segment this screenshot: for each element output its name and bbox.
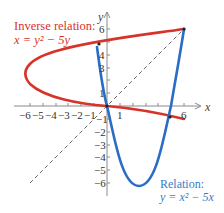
relation-title: Relation: [160,178,204,190]
x-tick-label: 6 [181,110,187,121]
y-tick-label: −2 [94,127,106,138]
y-axis-label: y [98,11,103,23]
inverse-relation-title: Inverse relation: [14,20,96,33]
x-tick-label: −3 [58,110,70,121]
graph-figure: −6 −5 −4 −3 −2 −1 1 6 6 4 3 1 −1 −2 −3 −… [0,0,224,213]
x-tick-label: −5 [32,110,44,121]
x-tick-label: −2 [71,110,83,121]
relation-equation: y = x² − 5x [160,191,214,203]
y-tick-label: −1 [96,114,108,125]
x-axis-label: x [205,101,210,113]
y-tick-label: 6 [99,24,105,35]
y-tick-label: −6 [94,178,106,189]
y-tick-label: 3 [99,63,105,74]
x-tick-label: −1 [84,110,96,121]
intersection-point-a [97,42,100,45]
x-tick-label: −4 [45,110,57,121]
y-tick-label: −5 [94,165,106,176]
y-tick-label: −3 [94,140,106,151]
intersection-point-origin [105,104,108,107]
x-tick-label: 1 [117,110,123,121]
intersection-point-b [168,115,171,118]
x-tick-label: −6 [19,110,31,121]
y-tick-label: 4 [99,50,105,61]
intersection-point-6-6 [182,27,185,30]
y-tick-label: −4 [94,152,106,163]
y-tick-label: 1 [99,88,105,99]
inverse-relation-equation: x = y² − 5y [14,34,70,47]
